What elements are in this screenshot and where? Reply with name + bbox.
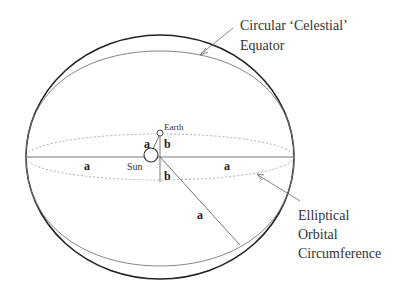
elliptical-label-2: Orbital [298,227,338,242]
sun-label: Sun [127,161,143,172]
a-left-label: a [84,159,90,173]
sun-earth-line [153,136,159,149]
orbit-diagram: Circular ‘Celestial’ Equator Elliptical … [0,0,403,297]
orbit-arrow [258,175,300,201]
equator-arrow [201,28,233,54]
earth-label: Earth [164,122,184,132]
a-diagonal-label: a [197,208,203,222]
elliptical-label-1: Elliptical [298,208,349,223]
earth-circle [157,130,163,136]
elliptical-label-3: Circumference [298,246,381,261]
celestial-equator-label-1: Circular ‘Celestial’ [240,18,348,33]
b-upper-label: b [164,137,171,151]
b-lower-label: b [164,169,171,183]
a-right-label: a [224,159,230,173]
celestial-equator-label-2: Equator [240,38,285,53]
a-sun-label: a [144,137,150,151]
